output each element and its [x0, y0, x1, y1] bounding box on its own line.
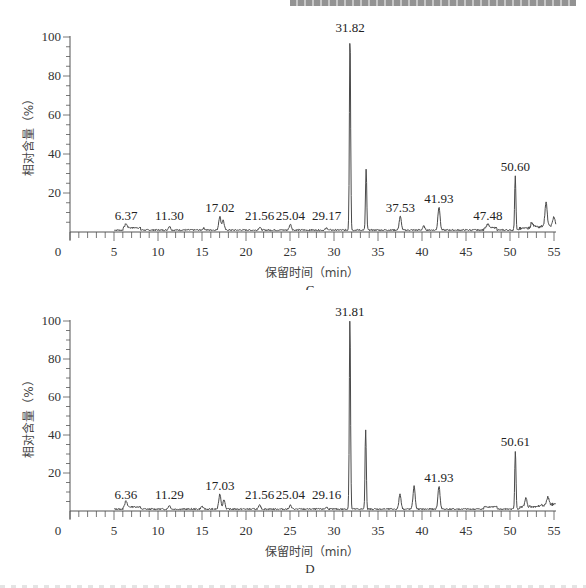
- x-tick-label: 10: [152, 523, 165, 538]
- x-tick-label: 25: [284, 244, 297, 259]
- x-tick-label: 40: [416, 523, 429, 538]
- y-tick-label: 40: [48, 427, 61, 442]
- x-tick-label: 50: [504, 244, 517, 259]
- peak-label: 25.04: [276, 208, 306, 223]
- x-tick-label: 20: [240, 244, 253, 259]
- peak-label: 50.60: [501, 159, 530, 174]
- y-axis-title: 相对含量（%）: [21, 93, 36, 176]
- peak-label: 21.56: [245, 208, 275, 223]
- y-tick-label: 100: [42, 29, 62, 44]
- peak-label: 37.53: [386, 200, 415, 215]
- peak-label: 47.48: [473, 208, 502, 223]
- peak-label: 17.02: [205, 200, 234, 215]
- peak-label: 29.17: [312, 208, 342, 223]
- y-tick-label: 60: [48, 107, 61, 122]
- panel-label: C: [306, 282, 315, 290]
- x-tick-label: 55: [548, 244, 561, 259]
- peak-label: 11.29: [155, 487, 184, 502]
- panel-label: D: [305, 561, 314, 576]
- peak-label: 6.37: [115, 208, 138, 223]
- peak-label: 21.56: [245, 487, 275, 502]
- x-tick-label: 40: [416, 244, 429, 259]
- x-tick-label: 25: [284, 523, 297, 538]
- x-tick-label: 35: [372, 523, 385, 538]
- y-tick-label: 100: [42, 313, 62, 328]
- chromatogram-c: 0510152025303540455055204060801006.3711.…: [0, 0, 586, 290]
- chromatogram-trace: [114, 321, 556, 510]
- peak-label: 29.16: [312, 487, 342, 502]
- peak-label: 25.04: [276, 487, 306, 502]
- x-tick-label: 45: [460, 523, 473, 538]
- x-axis-title: 保留时间（min）: [265, 545, 360, 559]
- x-tick-label: 30: [328, 244, 341, 259]
- x-tick-label: 0: [55, 523, 62, 538]
- x-tick-label: 5: [111, 244, 118, 259]
- peak-label: 41.93: [424, 470, 453, 485]
- y-tick-label: 20: [48, 465, 61, 480]
- y-tick-label: 80: [48, 68, 61, 83]
- x-tick-label: 45: [460, 244, 473, 259]
- peak-label: 31.81: [335, 304, 364, 319]
- x-tick-label: 15: [196, 523, 209, 538]
- x-tick-label: 50: [504, 523, 517, 538]
- y-tick-label: 20: [48, 185, 61, 200]
- y-tick-label: 60: [48, 389, 61, 404]
- x-tick-label: 10: [152, 244, 165, 259]
- y-tick-label: 80: [48, 351, 61, 366]
- x-tick-label: 15: [196, 244, 209, 259]
- peak-label: 11.30: [155, 208, 184, 223]
- chromatogram-d: 0510152025303540455055204060801006.3611.…: [0, 290, 586, 580]
- x-tick-label: 20: [240, 523, 253, 538]
- x-tick-label: 5: [111, 523, 118, 538]
- x-tick-label: 35: [372, 244, 385, 259]
- x-tick-label: 55: [548, 523, 561, 538]
- peak-label: 50.61: [501, 434, 530, 449]
- y-tick-label: 40: [48, 146, 61, 161]
- peak-label: 41.93: [424, 191, 453, 206]
- peak-label: 17.03: [205, 478, 234, 493]
- x-tick-label: 0: [55, 244, 62, 259]
- chromatogram-trace: [114, 43, 556, 230]
- x-axis-title: 保留时间（min）: [265, 266, 360, 280]
- peak-label: 6.36: [115, 487, 138, 502]
- x-tick-label: 30: [328, 523, 341, 538]
- y-axis-title: 相对含量（%）: [21, 374, 36, 457]
- peak-label: 31.82: [335, 20, 364, 35]
